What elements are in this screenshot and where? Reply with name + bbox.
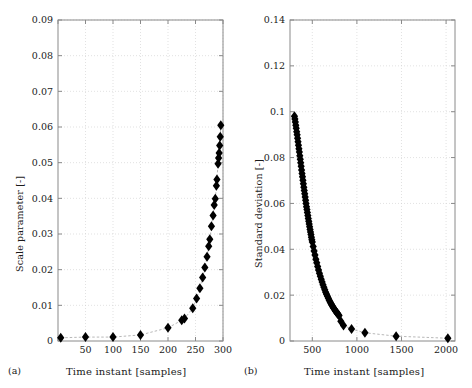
svg-text:0.08: 0.08 bbox=[32, 50, 53, 61]
svg-text:0: 0 bbox=[279, 335, 285, 346]
svg-text:0.04: 0.04 bbox=[32, 193, 53, 204]
svg-text:200: 200 bbox=[159, 344, 177, 355]
svg-text:0.12: 0.12 bbox=[264, 60, 285, 71]
panel-b-subfigure-tag: (b) bbox=[244, 365, 258, 376]
svg-text:1500: 1500 bbox=[389, 344, 413, 355]
svg-text:250: 250 bbox=[186, 344, 204, 355]
svg-text:1000: 1000 bbox=[345, 344, 369, 355]
figure-two-panel-scatter: 00.010.020.030.040.050.060.070.080.09501… bbox=[0, 0, 472, 388]
svg-text:0.01: 0.01 bbox=[32, 300, 53, 311]
svg-text:0.14: 0.14 bbox=[264, 14, 285, 25]
svg-text:500: 500 bbox=[303, 344, 321, 355]
plot-a-canvas: 00.010.020.030.040.050.060.070.080.09501… bbox=[0, 0, 236, 388]
svg-text:50: 50 bbox=[79, 344, 91, 355]
svg-text:0.02: 0.02 bbox=[264, 290, 285, 301]
svg-text:0: 0 bbox=[47, 335, 53, 346]
svg-text:0.05: 0.05 bbox=[32, 157, 53, 168]
svg-text:0.02: 0.02 bbox=[32, 264, 53, 275]
panel-a-scale-parameter: 00.010.020.030.040.050.060.070.080.09501… bbox=[0, 0, 236, 388]
svg-text:2000: 2000 bbox=[434, 344, 458, 355]
svg-text:0.1: 0.1 bbox=[270, 106, 285, 117]
svg-text:300: 300 bbox=[214, 344, 232, 355]
svg-text:0.04: 0.04 bbox=[264, 244, 285, 255]
svg-text:0.03: 0.03 bbox=[32, 228, 53, 239]
svg-text:0.08: 0.08 bbox=[264, 152, 285, 163]
svg-text:0.06: 0.06 bbox=[32, 121, 53, 132]
panel-a-x-axis-label: Time instant [samples] bbox=[66, 366, 186, 377]
svg-text:0.09: 0.09 bbox=[32, 14, 53, 25]
plot-b-canvas: 00.020.040.060.080.10.120.14500100015002… bbox=[236, 0, 472, 388]
svg-text:150: 150 bbox=[131, 344, 149, 355]
panel-a-subfigure-tag: (a) bbox=[8, 365, 21, 376]
panel-b-x-axis-label: Time instant [samples] bbox=[304, 366, 424, 377]
svg-text:0.06: 0.06 bbox=[264, 198, 285, 209]
svg-text:100: 100 bbox=[104, 344, 122, 355]
panel-a-y-axis-label: Scale parameter [-] bbox=[14, 176, 25, 272]
panel-b-standard-deviation: 00.020.040.060.080.10.120.14500100015002… bbox=[236, 0, 472, 388]
panel-b-y-axis-label: Standard deviation [-] bbox=[253, 159, 264, 268]
svg-text:0.07: 0.07 bbox=[32, 86, 53, 97]
